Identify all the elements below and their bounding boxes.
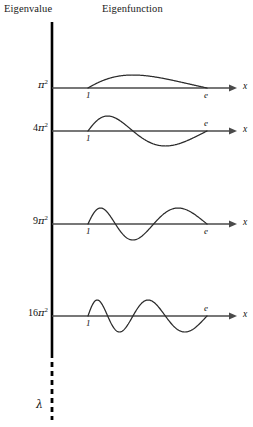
eigenfunction-row [52, 208, 237, 240]
eigenvalue-eigenfunction-figure: Eigenvalue Eigenfunction λπ21ex4π21ex9π2… [0, 0, 253, 427]
tick-label-one: 1 [86, 226, 91, 236]
tick-label-one: 1 [86, 90, 91, 100]
x-axis-arrowhead [229, 313, 237, 320]
eigenfunction-rows [52, 75, 237, 332]
x-axis-label: x [243, 81, 247, 91]
x-axis-arrowhead [229, 85, 237, 92]
tick-label-one: 1 [86, 318, 91, 328]
eigenvalue-label: 4π2 [6, 122, 48, 133]
x-axis-label: x [243, 217, 247, 227]
eigenfunction-row [52, 116, 237, 146]
eigenvalue-label: π2 [6, 79, 48, 90]
eigenvalue-label: 16π2 [6, 307, 48, 318]
eigenfunction-row [52, 75, 237, 91]
tick-label-one: 1 [86, 133, 91, 143]
tick-label-e: e [204, 303, 208, 313]
eigenfunction-curve [88, 75, 207, 88]
figure-canvas [0, 0, 253, 427]
tick-label-e: e [204, 118, 208, 128]
header-eigenvalue: Eigenvalue [4, 3, 52, 14]
x-axis-label: x [243, 124, 247, 134]
x-axis-label: x [243, 309, 247, 319]
eigenvalue-label: 9π2 [6, 215, 48, 226]
x-axis-arrowhead [229, 221, 237, 228]
eigenfunction-row [52, 300, 237, 332]
tick-label-e: e [204, 226, 208, 236]
lambda-axis-label: λ [36, 398, 43, 411]
x-axis-arrowhead [229, 128, 237, 135]
tick-label-e: e [204, 90, 208, 100]
header-eigenfunction: Eigenfunction [102, 3, 163, 14]
